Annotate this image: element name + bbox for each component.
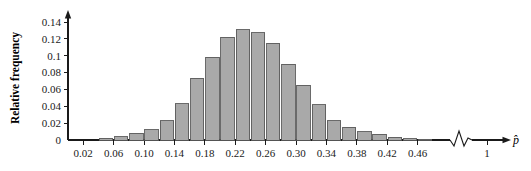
histogram-bar — [267, 43, 280, 140]
histogram-bar — [358, 132, 371, 140]
y-axis-tick-label: 0.04 — [42, 100, 62, 112]
y-axis-tick-label: 0.06 — [42, 83, 62, 95]
histogram-bar — [403, 139, 416, 140]
histogram-bar — [419, 139, 432, 140]
y-axis-tick-label: 0.12 — [42, 33, 61, 45]
y-axis-tick-label: 0.02 — [42, 117, 61, 129]
histogram-bar — [99, 138, 112, 140]
x-axis-arrowhead — [503, 137, 512, 143]
bars-group — [99, 30, 432, 140]
x-axis-tick-label: 0.14 — [165, 147, 185, 159]
x-axis-tick-label: 0.22 — [226, 147, 245, 159]
y-axis-tick-label: 0.08 — [42, 66, 62, 78]
histogram-bar — [191, 78, 204, 140]
x-axis-tick-label: 0.42 — [378, 147, 397, 159]
histogram-chart: 00.020.040.060.080.10.120.14Relative fre… — [0, 0, 531, 171]
x-axis-tick-label: 0.18 — [195, 147, 215, 159]
histogram-bar — [160, 121, 173, 140]
y-axis-arrowhead — [65, 10, 71, 19]
histogram-bar — [312, 105, 325, 140]
x-axis-title: p̂ — [512, 133, 519, 147]
x-axis-tick-label: 1 — [484, 147, 490, 159]
chart-canvas: 00.020.040.060.080.10.120.14Relative fre… — [0, 0, 531, 171]
x-axis-tick-label: 0.46 — [408, 147, 428, 159]
x-axis-tick-label: 0.38 — [347, 147, 367, 159]
x-axis-tick-label: 0.06 — [104, 147, 124, 159]
y-axis-title: Relative frequency — [9, 32, 22, 124]
histogram-bar — [373, 134, 386, 140]
x-axis-tick-label: 0.10 — [134, 147, 154, 159]
histogram-bar — [115, 137, 128, 140]
x-axis-tick-label: 0.26 — [256, 147, 276, 159]
histogram-bar — [343, 127, 356, 140]
histogram-bar — [282, 64, 295, 140]
x-axis-break-zigzag — [450, 131, 472, 146]
histogram-bar — [145, 130, 158, 140]
x-axis-tick-label: 0.30 — [286, 147, 306, 159]
histogram-bar — [251, 33, 264, 140]
x-axis-tick-label: 0.02 — [74, 147, 93, 159]
histogram-bar — [388, 137, 401, 140]
y-axis-tick-label: 0.1 — [47, 50, 61, 62]
y-axis-tick-label: 0.14 — [42, 16, 62, 28]
histogram-bar — [236, 30, 249, 140]
histogram-bar — [221, 37, 234, 140]
histogram-bar — [327, 121, 340, 140]
histogram-bar — [206, 57, 219, 140]
y-axis-tick-label: 0 — [56, 134, 62, 146]
histogram-bar — [297, 85, 310, 140]
histogram-bar — [175, 104, 188, 140]
histogram-bar — [130, 133, 143, 140]
x-axis-tick-label: 0.34 — [317, 147, 337, 159]
